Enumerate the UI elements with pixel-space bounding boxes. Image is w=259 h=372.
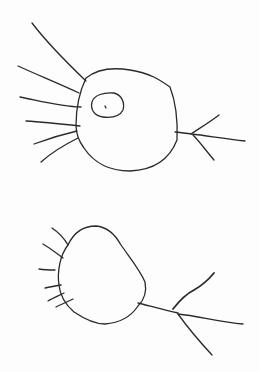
- top-dendrite-1: [32, 23, 86, 81]
- bottom-axon-branch-right: [178, 314, 243, 324]
- bottom-dendrite-2: [43, 244, 63, 258]
- bottom-cell: [39, 226, 243, 355]
- sketch-canvas: [0, 0, 259, 372]
- top-axon-branch-down: [193, 135, 214, 160]
- bottom-axon-branch-down: [178, 314, 212, 355]
- top-dendrite-3: [20, 97, 81, 107]
- top-dendrite-2: [18, 66, 79, 93]
- top-cell-nucleolus: [105, 106, 106, 108]
- bottom-dendrite-1: [52, 228, 68, 245]
- top-cell-body: [76, 69, 177, 171]
- top-dendrite-4: [26, 121, 80, 126]
- top-cell-nucleus: [92, 93, 124, 117]
- top-axon: [175, 132, 245, 141]
- bottom-axon-branch-up: [173, 273, 214, 309]
- bottom-dendrite-3: [39, 269, 55, 270]
- sketch-svg: [0, 0, 259, 372]
- top-dendrite-6: [41, 138, 78, 162]
- bottom-axon: [138, 303, 178, 313]
- top-axon-branch-up: [191, 115, 219, 134]
- bottom-cell-body: [58, 226, 145, 324]
- top-cell: [18, 23, 245, 171]
